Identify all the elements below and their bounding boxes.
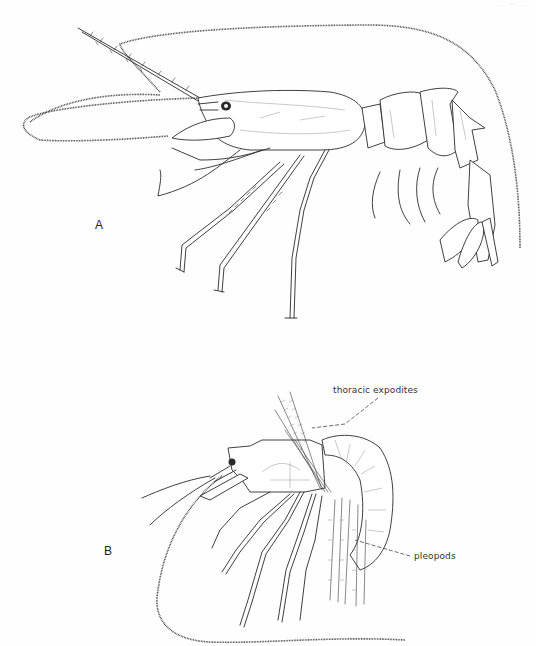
panel-label-b: B — [104, 544, 112, 558]
figure-page: … — … — [0, 0, 536, 646]
label-pleopods: pleopods — [414, 551, 456, 561]
shrimp-b-illustration — [0, 0, 536, 646]
label-thoracic-expodites: thoracic expodites — [333, 385, 418, 395]
leader-thoracic-expodites — [312, 398, 378, 428]
